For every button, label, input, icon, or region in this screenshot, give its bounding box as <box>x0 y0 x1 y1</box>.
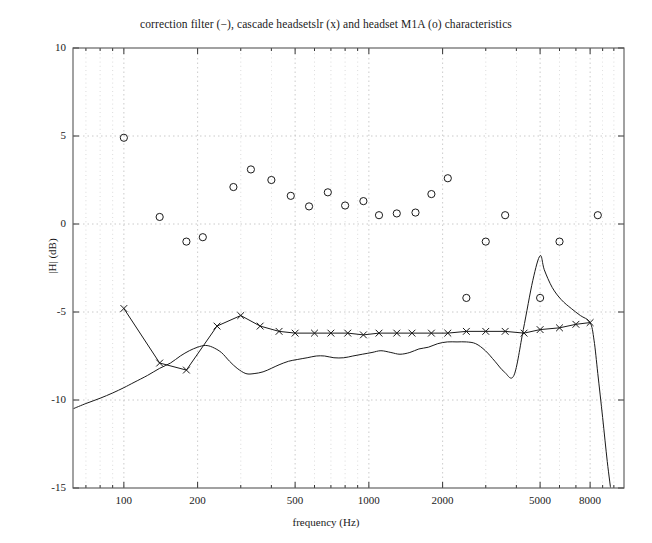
plot-area <box>0 0 652 543</box>
x-axis-title: frequency (Hz) <box>0 516 652 528</box>
axes-frame <box>73 48 624 488</box>
y-tick-label: -15 <box>18 481 66 493</box>
gridlines <box>74 49 623 487</box>
y-tick-label: 10 <box>18 41 66 53</box>
series-2 <box>120 134 601 301</box>
x-tick-label: 8000 <box>560 494 620 506</box>
y-axis-title: |H| (dB) <box>46 196 58 316</box>
x-tick-label: 1000 <box>339 494 399 506</box>
x-tick-label: 2000 <box>413 494 473 506</box>
y-tick-label: 0 <box>18 217 66 229</box>
series-0 <box>73 255 612 496</box>
figure-canvas: correction filter (−), cascade headsetsl… <box>0 0 652 543</box>
data-series-layer <box>73 134 612 497</box>
y-tick-label: -5 <box>18 305 66 317</box>
x-tick-label: 200 <box>168 494 228 506</box>
axis-ticks <box>73 48 624 488</box>
x-tick-label: 100 <box>94 494 154 506</box>
x-tick-label: 500 <box>265 494 325 506</box>
y-tick-label: 5 <box>18 129 66 141</box>
y-tick-label: -10 <box>18 393 66 405</box>
series-1 <box>120 305 593 373</box>
